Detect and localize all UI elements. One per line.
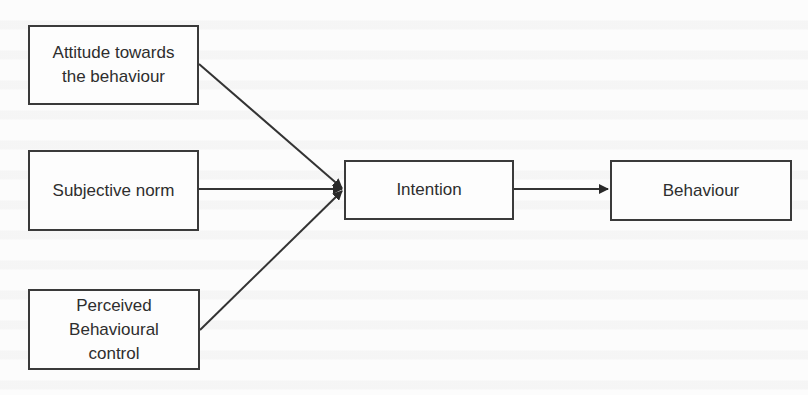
node-subjective-norm: Subjective norm	[28, 150, 199, 231]
node-label-line: the behaviour	[53, 65, 175, 89]
node-behaviour: Behaviour	[610, 160, 792, 221]
node-label-line: Attitude towards	[53, 41, 175, 65]
node-intention: Intention	[344, 160, 514, 220]
node-label-line: Behaviour	[663, 179, 740, 203]
node-label-line: Perceived	[69, 294, 159, 318]
edge-perceived-control-to-intention	[200, 191, 342, 330]
node-attitude-towards-behaviour: Attitude towards the behaviour	[28, 25, 199, 105]
node-perceived-behavioural-control: Perceived Behavioural control	[28, 289, 200, 370]
node-label-line: Intention	[396, 178, 461, 202]
node-label-line: Subjective norm	[53, 179, 175, 203]
diagram-canvas: Attitude towards the behaviour Subjectiv…	[0, 0, 808, 395]
node-label-line: Behavioural	[69, 318, 159, 342]
node-label-line: control	[69, 342, 159, 366]
edge-attitude-to-intention	[199, 64, 342, 188]
